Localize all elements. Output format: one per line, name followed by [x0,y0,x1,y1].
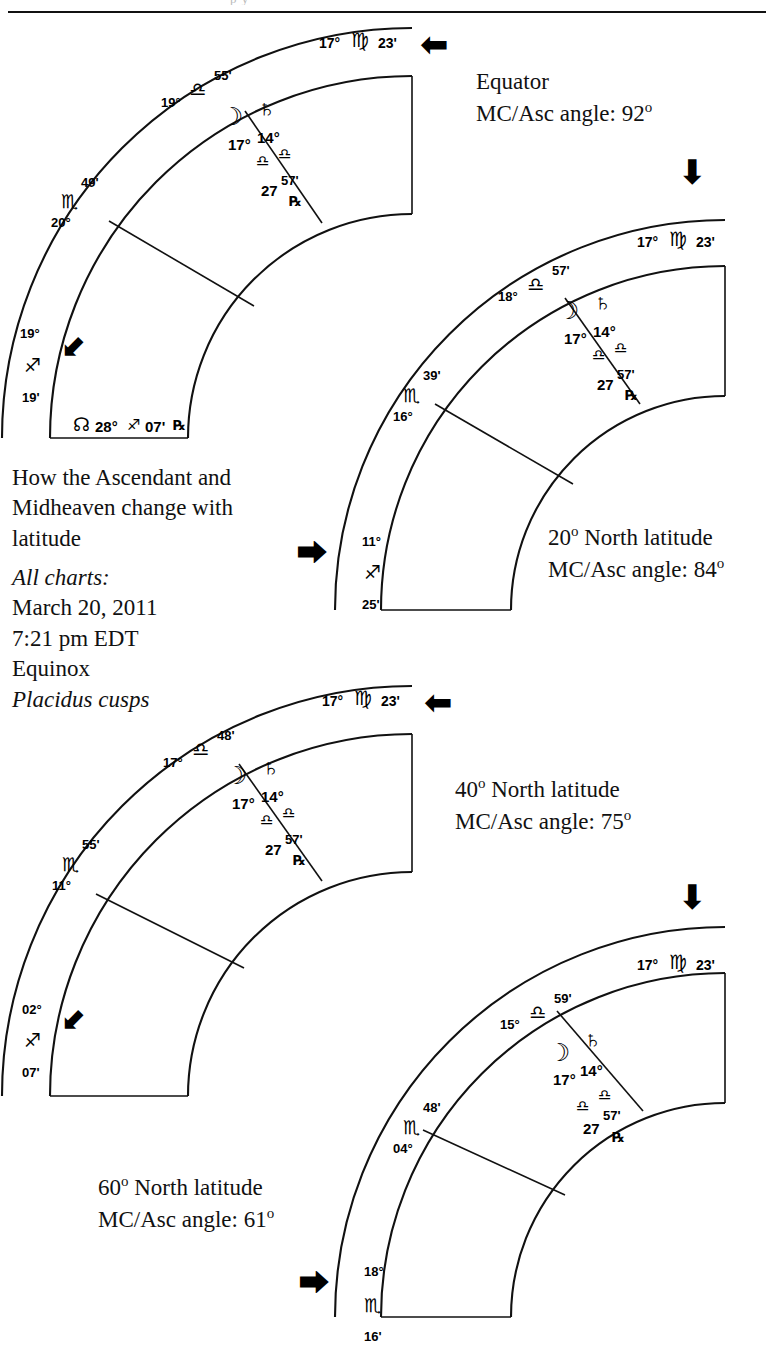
cusp-11-sign-glyph: ♎ [189,80,206,99]
cusp-12-minute: 48' [423,1101,441,1114]
moon-glyph: ☽ [221,104,243,129]
cusp-11-degree: 17° [163,756,183,769]
point-retrograde-icon: ℞ [625,388,638,402]
node-degree: 28° [95,419,118,434]
point-minute: 57' [617,368,635,381]
cusp-11-degree: 15° [500,1018,520,1031]
cusp-12-sign-glyph: ♏ [403,1118,420,1137]
chart-20n-mcasc-degree-symbol: o [717,556,725,572]
point-degree: 27 [597,377,614,392]
ascendant-sign-glyph: ♐ [364,563,381,582]
cusp-12-minute: 49' [81,176,99,189]
chart-equator-mcasc-degree-symbol: o [645,100,653,116]
saturn-sign-glyph: ♎ [282,805,295,820]
chart-60n-mcasc-text: MC/Asc angle: 61 [98,1207,267,1232]
chart-20n-latitude-degree-symbol: o [571,523,579,539]
cusp-12-degree: 16° [393,410,413,423]
chart-40n-latitude-rest: North latitude [486,777,620,802]
ascendant-degree: 02° [22,1003,42,1016]
chart-60n-latitude-degree-symbol: o [121,1173,129,1189]
chart-20n-latitude-value: 20 [548,525,571,550]
saturn-degree: 14° [593,324,616,339]
point-minute: 57' [281,174,299,187]
mc-minute: 23' [696,235,715,249]
point-retrograde-icon: ℞ [289,194,302,208]
page-header-ghost-text: p y [230,0,750,5]
point-minute: 57' [603,1109,621,1122]
ascendant-arrow-icon: ⬋ [62,1003,87,1033]
ascendant-arrow-icon: ⮕ [299,1268,329,1298]
mc-arrow-icon: ⬇ [678,155,707,189]
cusp-12-sign-glyph: ♏ [403,386,420,405]
moon-glyph: ☽ [557,298,579,323]
ascendant-arrow-icon: ⬋ [62,330,87,360]
saturn-degree: 14° [261,789,284,804]
ascendant-minute: 16' [364,1330,382,1343]
cusp-12-sign-glyph: ♏ [61,192,78,211]
ascendant-sign-glyph: ♐ [24,1031,41,1050]
cusp-12-degree: 20° [51,216,71,229]
caption-title-line-2: Midheaven change with [12,493,233,523]
cusp-11-minute: 57' [552,264,570,277]
moon-glyph: ☽ [548,1040,570,1065]
chart-20n-latitude-rest: North latitude [579,525,713,550]
mc-minute: 23' [381,694,400,708]
caption-title-line-1: How the Ascendant and [12,463,233,493]
point-retrograde-icon: ℞ [612,1130,625,1144]
node-minute: 07' [145,419,165,434]
cusp-11-minute: 48' [217,729,235,742]
cusp-11-sign-glyph: ♎ [529,1003,546,1022]
saturn-degree: 14° [257,130,280,145]
moon-sign-glyph: ♎ [592,347,605,362]
cusp-11-degree: 19° [161,96,181,109]
moon-degree: 17° [232,796,255,811]
node-sign-glyph: ♐ [127,417,140,432]
ascendant-sign-glyph: ♐ [24,356,41,375]
moon-sign-glyph: ♎ [256,153,269,168]
page-canvas: p y [0,0,774,1365]
chart-40n-latitude-degree-symbol: o [478,775,486,791]
point-degree: 27 [583,1121,600,1136]
cusp-12-degree: 11° [52,879,71,892]
chart-40n-latitude-value: 40 [455,777,478,802]
chart-20n-latitude-label: 20o North latitude MC/Asc angle: 84o [548,522,724,586]
cusp-11-degree: 18° [498,290,518,303]
point-retrograde-icon: ℞ [293,853,306,867]
node-glyph: ☊ [73,415,90,434]
chart-60n-mcasc-degree-symbol: o [267,1206,275,1222]
saturn-glyph: ♄ [583,1027,602,1052]
saturn-glyph: ♄ [257,96,276,121]
moon-sign-glyph: ♎ [576,1098,589,1113]
mc-sign-glyph: ♍ [354,688,372,708]
cusp-12-minute: 55' [82,838,100,851]
saturn-sign-glyph: ♎ [614,340,627,355]
caption-date: March 20, 2011 [12,593,233,623]
saturn-sign-glyph: ♎ [278,146,291,161]
mc-degree: 17° [637,958,658,972]
cusp-11-minute: 59' [554,992,572,1005]
chart-equator-latitude-label: Equator MC/Asc angle: 92o [476,66,652,130]
cusp-12-sign-glyph: ♏ [62,855,79,874]
ascendant-degree: 19° [20,327,40,340]
mc-arrow-icon: ⬅ [420,27,449,61]
caption-title-line-3: latitude [12,524,233,554]
point-degree: 27 [265,842,282,857]
chart-20n-mcasc-text: MC/Asc angle: 84 [548,557,717,582]
mc-minute: 23' [696,958,715,972]
ascendant-minute: 25' [362,598,380,611]
mc-minute: 23' [378,36,397,50]
ascendant-minute: 19' [22,391,40,404]
mc-degree: 17° [637,235,658,249]
node-retrograde-icon: ℞ [173,418,186,432]
cusp-12-minute: 39' [423,369,441,382]
ascendant-arrow-icon: ⮕ [297,538,327,568]
mc-sign-glyph: ♍ [669,229,687,249]
ascendant-sign-glyph: ♏ [364,1296,381,1315]
ascendant-degree: 11° [362,535,381,548]
saturn-glyph: ♄ [261,755,280,780]
chart-40n-mcasc-degree-symbol: o [624,808,632,824]
chart-60n-latitude-rest: North latitude [129,1175,263,1200]
saturn-degree: 14° [580,1063,603,1078]
cusp-11-sign-glyph: ♎ [527,275,544,294]
page-top-rule [8,11,766,13]
